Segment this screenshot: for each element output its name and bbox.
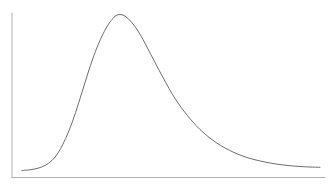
plot-area — [0, 0, 334, 186]
chart-background — [0, 0, 334, 186]
chart-figure — [0, 0, 334, 186]
